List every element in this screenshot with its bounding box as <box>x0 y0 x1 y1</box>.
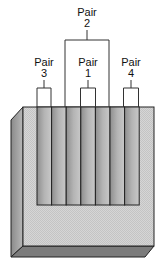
connector-diagram <box>0 0 164 274</box>
connector-side-face <box>11 107 23 257</box>
bracket-pair-4 <box>124 80 139 107</box>
label-pair-4-number: 4 <box>116 68 146 79</box>
bracket-pair-1 <box>81 80 96 107</box>
label-pair-3-number: 3 <box>29 68 59 79</box>
label-pair-4: Pair 4 <box>116 57 146 79</box>
label-pair-2: Pair 2 <box>72 7 102 29</box>
label-pair-1-number: 1 <box>73 68 103 79</box>
pin-slots <box>37 107 139 205</box>
label-pair-2-number: 2 <box>72 18 102 29</box>
label-pair-1: Pair 1 <box>73 57 103 79</box>
label-pair-3: Pair 3 <box>29 57 59 79</box>
connector-bottom-face <box>11 246 154 257</box>
bracket-pair-3 <box>37 80 51 107</box>
